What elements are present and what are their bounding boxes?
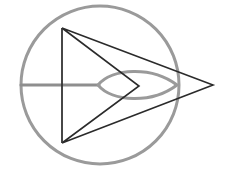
figure-canvas: Geometric line figure: circle with inscr… xyxy=(0,0,233,169)
figure-svg: Geometric line figure: circle with inscr… xyxy=(0,0,233,169)
